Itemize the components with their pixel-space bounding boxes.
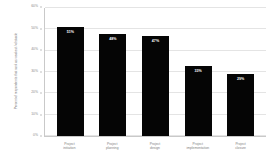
bar[interactable]: 29% (227, 74, 254, 136)
y-axis-tick-mark (40, 71, 42, 72)
y-axis-tick-mark (40, 50, 42, 51)
bar-value-label: 29% (227, 77, 254, 81)
bar[interactable]: 33% (185, 66, 212, 136)
y-axis-tick-label: 10% (31, 112, 38, 116)
bar-slot: 48% (92, 8, 135, 136)
bar-value-label: 48% (99, 37, 126, 41)
y-axis-tick-mark (40, 114, 42, 115)
bar[interactable]: 47% (142, 36, 169, 136)
y-axis-title-text: Percent of respondents that rank as weak… (15, 28, 19, 114)
x-axis-category-label: Projectplanning (91, 139, 134, 161)
y-axis-tick-label: 20% (31, 90, 38, 94)
y-axis-tick-mark (40, 93, 42, 94)
y-axis-tick-label: 30% (31, 69, 38, 73)
bar-slot: 29% (219, 8, 262, 136)
y-axis-tick-labels: 0%10%20%30%40%50%60% (0, 8, 42, 137)
bar-value-label: 51% (57, 30, 84, 34)
y-axis-tick-mark (40, 7, 42, 8)
x-axis-category-label: Projectinitiation (48, 139, 91, 161)
x-axis-category-label-line: planning (91, 146, 134, 150)
bar-series: 51%48%47%33%29% (45, 8, 266, 136)
bar-slot: 33% (177, 8, 220, 136)
x-axis-category-label: Projectdesign (134, 139, 177, 161)
bar[interactable]: 51% (57, 27, 84, 136)
x-axis-category-label: Projectimplementation (176, 139, 219, 161)
y-axis-title: Percent of respondents that rank as weak… (15, 0, 27, 28)
bar-value-label: 33% (185, 69, 212, 73)
plot-area: 51%48%47%33%29% (44, 8, 266, 137)
x-axis-category-label-line: design (134, 146, 177, 150)
x-axis-category-label: Projectclosure (219, 139, 262, 161)
y-axis-tick-label: 40% (31, 47, 38, 51)
bar-chart: Percent of respondents that rank as weak… (0, 0, 275, 163)
y-axis-tick-label: 60% (31, 4, 38, 8)
bar-slot: 51% (49, 8, 92, 136)
x-axis-category-label-line: initiation (48, 146, 91, 150)
bar[interactable]: 48% (99, 34, 126, 136)
y-axis-tick-label: 0% (33, 133, 38, 137)
y-axis-tick-mark (40, 28, 42, 29)
x-axis-category-labels: ProjectinitiationProjectplanningProjectd… (44, 139, 266, 161)
bar-value-label: 47% (142, 39, 169, 43)
x-axis-category-label-line: closure (219, 146, 262, 150)
y-axis-tick-mark (40, 136, 42, 137)
x-axis-category-label-line: implementation (176, 146, 219, 150)
y-axis-tick-label: 50% (31, 26, 38, 30)
bar-slot: 47% (134, 8, 177, 136)
